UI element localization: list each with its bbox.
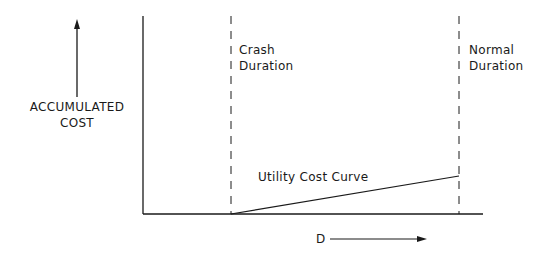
y-axis-label-line1: ACCUMULATED — [28, 99, 126, 115]
utility-cost-curve-label: Utility Cost Curve — [258, 169, 368, 185]
y-axis-label-line2: COST — [28, 115, 126, 131]
normal-duration-label: Normal Duration — [469, 42, 524, 74]
crash-label-line2: Duration — [239, 58, 294, 74]
normal-label-line2: Duration — [469, 58, 524, 74]
crash-label-line1: Crash — [239, 42, 294, 58]
normal-label-line1: Normal — [469, 42, 524, 58]
y-arrowhead-icon — [74, 19, 80, 29]
crash-duration-label: Crash Duration — [239, 42, 294, 74]
y-axis-label: ACCUMULATED COST — [28, 99, 126, 131]
x-axis-label: D — [316, 231, 326, 247]
x-arrowhead-icon — [417, 236, 427, 242]
